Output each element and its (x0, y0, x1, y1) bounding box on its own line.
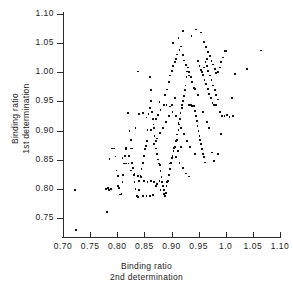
data-point (176, 54, 178, 56)
data-point (201, 148, 203, 150)
data-point (232, 115, 234, 117)
y-tick-mark (57, 218, 63, 219)
data-point (168, 115, 170, 117)
data-point (174, 97, 176, 99)
data-point (203, 67, 205, 69)
data-point (128, 155, 130, 157)
data-point (167, 180, 169, 182)
data-point (164, 195, 166, 197)
data-point (153, 124, 155, 126)
data-point (202, 111, 204, 113)
data-point (157, 114, 159, 116)
data-point (153, 143, 155, 145)
data-point (159, 132, 161, 134)
data-point (186, 71, 188, 73)
data-point (143, 180, 145, 182)
data-point (131, 162, 133, 164)
data-point (137, 175, 139, 177)
data-point (183, 60, 185, 62)
data-point (204, 162, 206, 164)
data-point (115, 156, 117, 158)
data-point (150, 89, 152, 91)
data-point (113, 148, 115, 150)
data-point (186, 140, 188, 142)
data-point (200, 69, 202, 71)
data-point (155, 140, 157, 142)
data-point (159, 101, 161, 103)
data-point (188, 75, 190, 77)
data-point (183, 133, 185, 135)
data-point (156, 138, 158, 140)
data-point (165, 192, 167, 194)
data-point (181, 104, 183, 106)
data-point (229, 116, 231, 118)
data-point (205, 83, 207, 85)
data-point (202, 74, 204, 76)
x-tick-label: 1.10 (264, 241, 293, 251)
data-point (109, 158, 111, 160)
x-tick-mark (199, 232, 200, 238)
data-point (172, 65, 174, 67)
data-point (222, 57, 224, 59)
data-point (194, 110, 196, 112)
data-point (185, 85, 187, 87)
data-point (195, 115, 197, 117)
data-point (110, 188, 112, 190)
data-point (179, 118, 181, 120)
data-point (195, 29, 197, 31)
x-tick-mark (90, 232, 91, 238)
data-point (207, 51, 209, 53)
data-point (116, 170, 118, 172)
data-point (220, 133, 222, 135)
data-point (134, 173, 136, 175)
data-point (217, 153, 219, 155)
data-point (196, 120, 198, 122)
data-point (211, 79, 213, 81)
data-point (142, 195, 144, 197)
data-point (207, 88, 209, 90)
data-point (144, 148, 146, 150)
data-point (211, 152, 213, 154)
data-point (152, 194, 154, 196)
data-point (183, 95, 185, 97)
y-axis-title-line-1: Binding ratio (10, 49, 21, 189)
data-point (122, 181, 124, 183)
data-point (171, 104, 173, 106)
data-point (260, 50, 262, 52)
y-tick-label: 0.80 (35, 184, 54, 193)
data-point (168, 174, 170, 176)
data-point (214, 89, 216, 91)
data-point (182, 100, 184, 102)
data-point (220, 61, 222, 63)
data-point (160, 170, 162, 172)
data-point (179, 49, 181, 51)
data-point (180, 146, 182, 148)
data-point (217, 71, 219, 73)
data-point (234, 73, 236, 75)
data-point (225, 50, 227, 52)
data-point (131, 148, 133, 150)
data-point (125, 149, 127, 151)
data-point (226, 114, 228, 116)
data-point (211, 60, 213, 62)
data-point (106, 211, 108, 213)
data-point (182, 54, 184, 56)
y-tick-label: 1.00 (35, 67, 54, 76)
y-axis-title: Binding ratio 1st determination (10, 49, 31, 189)
data-point (138, 189, 140, 191)
data-point (152, 118, 154, 120)
data-point (197, 94, 199, 96)
y-tick-label: 1.10 (35, 9, 54, 18)
data-point (149, 195, 151, 197)
data-point (219, 67, 221, 69)
data-point (198, 130, 200, 132)
data-point (194, 88, 196, 90)
data-point (182, 167, 184, 169)
data-point (155, 185, 157, 187)
data-point (137, 196, 139, 198)
data-point (149, 107, 151, 109)
data-point (160, 109, 162, 111)
data-point (143, 155, 145, 157)
data-point (246, 68, 248, 70)
data-point (181, 107, 183, 109)
